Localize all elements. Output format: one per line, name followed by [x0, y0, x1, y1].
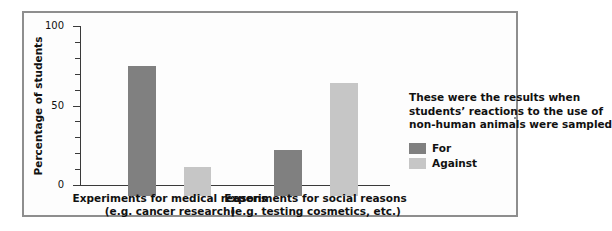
legend-item-against: Against: [409, 156, 559, 171]
legend-swatch-for-icon: [409, 143, 426, 154]
y-tick-10: [75, 169, 80, 170]
y-tick-label-100: 100: [45, 21, 64, 31]
x-category-label-social: Experiments for social reasons (e.g. tes…: [219, 192, 412, 218]
bar-social-against: [330, 83, 358, 196]
legend-label-for: For: [432, 143, 451, 154]
bar-medical-for: [128, 66, 156, 196]
y-tick-label-0: 0: [58, 180, 64, 190]
y-tick-label-50: 50: [51, 101, 64, 111]
y-axis-title: Percentage of students: [32, 37, 44, 176]
legend-caption-line3: non-human animals were sampled: [409, 118, 559, 132]
legend-item-for: For: [409, 141, 559, 156]
y-axis-line: [80, 26, 81, 185]
legend-caption: These were the results when students’ re…: [409, 91, 559, 132]
y-tick-60: [75, 90, 80, 91]
y-tick-90: [75, 42, 80, 43]
y-tick-20: [75, 153, 80, 154]
y-tick-30: [75, 137, 80, 138]
legend-items: For Against: [409, 141, 559, 171]
chart-legend: These were the results when students’ re…: [409, 91, 559, 171]
bar-social-for: [274, 150, 302, 196]
plot-area: 100 50 0 Percentage of students Experime…: [80, 26, 400, 197]
y-tick-100: 100: [73, 26, 80, 27]
legend-caption-line2: students’ reactions to the use of: [409, 105, 559, 119]
y-tick-0: 0: [73, 185, 80, 186]
legend-swatch-against-icon: [409, 158, 426, 169]
stray-speck: [514, 117, 516, 119]
y-tick-50: 50: [73, 106, 80, 107]
legend-label-against: Against: [432, 158, 477, 169]
y-tick-70: [75, 74, 80, 75]
legend-caption-line1: These were the results when: [409, 91, 559, 105]
x-category-label-social-line2: (e.g. testing cosmetics, etc.): [219, 205, 412, 218]
chart-figure-frame: 100 50 0 Percentage of students Experime…: [22, 11, 518, 217]
y-tick-80: [75, 58, 80, 59]
x-category-label-social-line1: Experiments for social reasons: [219, 192, 412, 205]
y-tick-40: [75, 121, 80, 122]
